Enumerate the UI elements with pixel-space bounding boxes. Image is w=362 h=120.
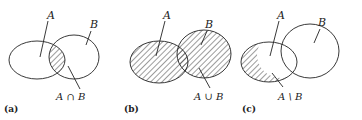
set-a-label: A bbox=[162, 9, 171, 22]
operation-leader-line bbox=[68, 66, 80, 89]
set-a-label: A bbox=[276, 9, 285, 22]
set-b-label: B bbox=[317, 16, 326, 29]
panel-a: A B A ∩ B (a) bbox=[4, 9, 99, 114]
venn-diagrams-svg: A B A ∩ B (a) A B A ∪ B (b) A bbox=[0, 0, 362, 120]
panel-label: (b) bbox=[124, 104, 139, 114]
panel-c: A B A \ B (c) bbox=[241, 9, 339, 114]
set-b-label: B bbox=[89, 18, 98, 31]
panel-label: (a) bbox=[4, 104, 18, 114]
set-b-leader-line bbox=[314, 29, 320, 43]
operation-label: A \ B bbox=[277, 91, 302, 102]
operation-label: A ∪ B bbox=[193, 91, 223, 102]
panel-label: (c) bbox=[242, 104, 256, 114]
venn-diagram-figure: A B A ∩ B (a) A B A ∪ B (b) A bbox=[0, 0, 362, 120]
panel-b: A B A ∪ B (b) bbox=[124, 9, 231, 114]
set-b-label: B bbox=[204, 18, 213, 31]
operation-label: A ∩ B bbox=[55, 91, 85, 102]
set-a-leader-line bbox=[40, 21, 48, 57]
set-a-label: A bbox=[46, 9, 55, 22]
